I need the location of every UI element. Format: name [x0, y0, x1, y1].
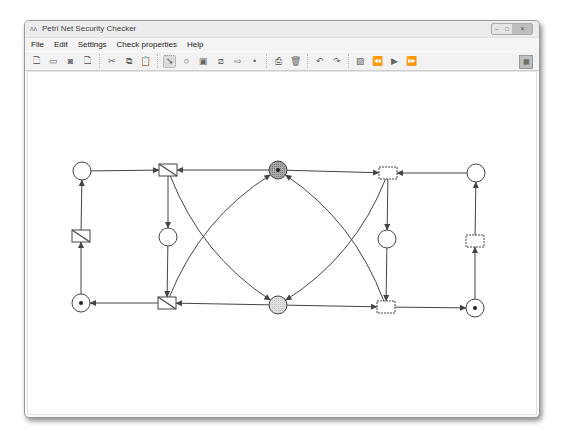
new-button[interactable]: 🗋 [30, 55, 43, 68]
arc-p_center_bot-to-t_left_bot[interactable] [176, 303, 269, 305]
menu-edit[interactable]: Edit [54, 39, 68, 51]
place-p-right-top[interactable] [467, 164, 485, 182]
step-back-button[interactable]: ⏪ [371, 55, 384, 68]
hatched-transition-tool-button[interactable]: ⧄ [214, 55, 227, 68]
save-as-icon: 🗋 [84, 53, 91, 69]
toolbar-separator [99, 54, 101, 68]
grid-button[interactable]: ▦ [519, 55, 533, 69]
transition-t-left-top[interactable] [159, 164, 177, 176]
transition-box[interactable] [379, 167, 397, 179]
hatched-transition-tool-icon: ⧄ [218, 56, 224, 67]
undo-icon: ↶ [316, 56, 324, 66]
step-back-icon: ⏪ [372, 56, 383, 66]
delete-button[interactable]: 🗑 [289, 55, 302, 68]
place-p-left-mid[interactable] [159, 228, 177, 246]
arc-t_far_right-to-p_right_top[interactable] [475, 182, 476, 235]
play-icon: ▶ [391, 56, 398, 66]
token-tool-button[interactable]: • [248, 55, 261, 68]
place-p-left-top[interactable] [73, 162, 91, 180]
transition-t-far-left[interactable] [72, 230, 90, 242]
arc-t_right_bot-to-p_right_bot[interactable] [395, 307, 466, 308]
window-controls: ‒ □ ✕ [491, 23, 533, 35]
print-icon: ⎙ [275, 56, 282, 67]
place-circle[interactable] [378, 230, 396, 248]
close-button[interactable]: ✕ [512, 24, 532, 34]
cut-button[interactable]: ✂ [105, 55, 118, 68]
app-window: ᴧᴧ Petri Net Security Checker ‒ □ ✕ File… [24, 20, 540, 418]
place-p-center-bot[interactable] [269, 296, 287, 314]
place-p-right-mid[interactable] [378, 230, 396, 248]
place-p-center-top[interactable] [269, 161, 287, 179]
token-tool-icon: • [253, 56, 256, 66]
copy-button[interactable]: ⧉ [122, 55, 135, 68]
paste-icon: 📋 [140, 56, 151, 66]
arc-p_left_top-to-t_left_top[interactable] [91, 170, 159, 171]
arc-p_right_mid-to-t_right_bot[interactable] [386, 248, 387, 301]
toolbar-separator [157, 54, 159, 68]
toolbar: 🗋▭◙🗋✂⧉📋➘○▣⧄⇨•⎙🗑↶↷▨⏪▶⏩ ▦ [25, 52, 539, 71]
select-pointer-icon: ➘ [166, 56, 174, 66]
arc-p_left_mid-to-t_left_bot[interactable] [167, 246, 168, 297]
arc-p_center_top-to-t_right_top[interactable] [287, 170, 379, 173]
transition-box[interactable] [377, 301, 395, 313]
arc-tool-icon: ⇨ [234, 56, 242, 66]
window-title: Petri Net Security Checker [42, 24, 136, 34]
transition-tool-icon: ▣ [199, 56, 208, 66]
petri-net-canvas[interactable] [27, 71, 537, 415]
step-forward-button[interactable]: ⏩ [405, 55, 418, 68]
place-p-left-bot[interactable] [72, 294, 90, 312]
menu-file[interactable]: File [31, 39, 44, 51]
toolbar-separator [348, 54, 350, 68]
select-pointer-button[interactable]: ➘ [163, 55, 176, 68]
petri-net-diagram[interactable] [28, 72, 538, 416]
place-circle[interactable] [159, 228, 177, 246]
title-bar: ᴧᴧ Petri Net Security Checker ‒ □ ✕ [25, 21, 539, 38]
transition-t-far-right[interactable] [466, 235, 484, 247]
place-circle[interactable] [269, 296, 287, 314]
grid-icon: ▦ [523, 58, 530, 66]
maximize-button[interactable]: □ [502, 24, 512, 34]
image-icon: ▨ [356, 56, 365, 66]
new-icon: 🗋 [33, 53, 40, 69]
place-tool-button[interactable]: ○ [180, 55, 193, 68]
transition-t-right-top[interactable] [379, 167, 397, 179]
token [79, 301, 83, 305]
place-tool-icon: ○ [184, 56, 189, 66]
undo-button[interactable]: ↶ [313, 55, 326, 68]
arc-t_left_top-to-p_center_bot[interactable] [170, 176, 270, 300]
arc-t_right_top-to-p_center_bot[interactable] [286, 179, 386, 300]
minimize-button[interactable]: ‒ [492, 24, 502, 34]
step-forward-icon: ⏩ [406, 56, 417, 66]
arc-t_left_bot-to-p_center_top[interactable] [169, 175, 270, 297]
place-p-right-bot[interactable] [466, 299, 484, 317]
save-button[interactable]: ◙ [64, 55, 77, 68]
transition-t-right-bot[interactable] [377, 301, 395, 313]
transition-t-left-bot[interactable] [158, 297, 176, 309]
redo-button[interactable]: ↷ [330, 55, 343, 68]
transition-tool-button[interactable]: ▣ [197, 55, 210, 68]
save-as-button[interactable]: 🗋 [81, 55, 94, 68]
transition-box[interactable] [466, 235, 484, 247]
place-circle[interactable] [73, 162, 91, 180]
arc-p_center_bot-to-t_right_bot[interactable] [287, 305, 377, 307]
arc-t_far_left-to-p_left_top[interactable] [81, 180, 82, 230]
copy-icon: ⧉ [126, 56, 132, 67]
play-button[interactable]: ▶ [388, 55, 401, 68]
arc-t_right_top-to-p_right_mid[interactable] [387, 179, 388, 230]
arc-t_right_bot-to-p_center_top[interactable] [285, 175, 383, 301]
image-button[interactable]: ▨ [354, 55, 367, 68]
place-circle[interactable] [467, 164, 485, 182]
app-icon: ᴧᴧ [30, 25, 37, 33]
paste-button[interactable]: 📋 [139, 55, 152, 68]
menu-bar: File Edit Settings Check properties Help [25, 38, 539, 51]
menu-help[interactable]: Help [187, 39, 203, 51]
cut-icon: ✂ [108, 56, 116, 66]
open-button[interactable]: ▭ [47, 55, 60, 68]
menu-check-properties[interactable]: Check properties [117, 39, 177, 51]
token [276, 168, 280, 172]
menu-settings[interactable]: Settings [78, 39, 107, 51]
arc-tool-button[interactable]: ⇨ [231, 55, 244, 68]
open-icon: ▭ [49, 56, 58, 66]
print-button[interactable]: ⎙ [272, 55, 285, 68]
token [473, 306, 477, 310]
